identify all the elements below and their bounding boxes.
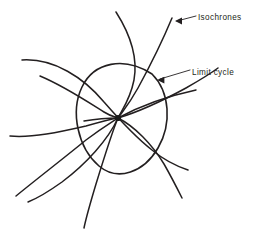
isochrone-curve-group [10, 12, 218, 228]
isochrones-label: Isochrones [198, 13, 242, 22]
annotation-isochrones: Isochrones [175, 13, 242, 24]
limit-cycle-label: Limit cycle [192, 68, 234, 77]
isochrone-curve [16, 90, 196, 196]
arrowhead-icon [175, 18, 182, 25]
isochrone-limit-cycle-diagram: Isochrones Limit cycle [0, 0, 259, 242]
fixed-point-dot [115, 115, 121, 121]
figure-canvas: Isochrones Limit cycle [0, 0, 259, 242]
limit-cycle-ellipse [76, 64, 167, 174]
annotation-limit-cycle: Limit cycle [157, 68, 234, 83]
leader-line-limit-cycle [160, 70, 190, 79]
